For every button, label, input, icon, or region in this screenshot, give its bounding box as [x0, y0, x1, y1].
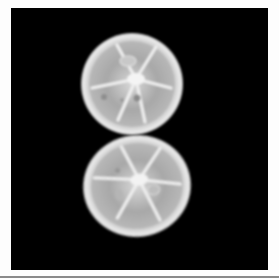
top-citrus-slice — [81, 33, 183, 135]
citrus-photo — [0, 0, 279, 279]
bottom-citrus-slice — [76, 128, 197, 244]
bottom-divider-line — [0, 276, 279, 278]
